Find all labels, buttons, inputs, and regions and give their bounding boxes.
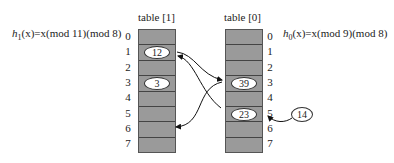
arrow-23-to-12 bbox=[178, 56, 221, 108]
arrow-12-to-39 bbox=[177, 52, 222, 80]
arrow-14-to-slot5 bbox=[268, 116, 292, 122]
arrows bbox=[0, 0, 394, 163]
arrow-39-to-slot6 bbox=[176, 82, 222, 127]
